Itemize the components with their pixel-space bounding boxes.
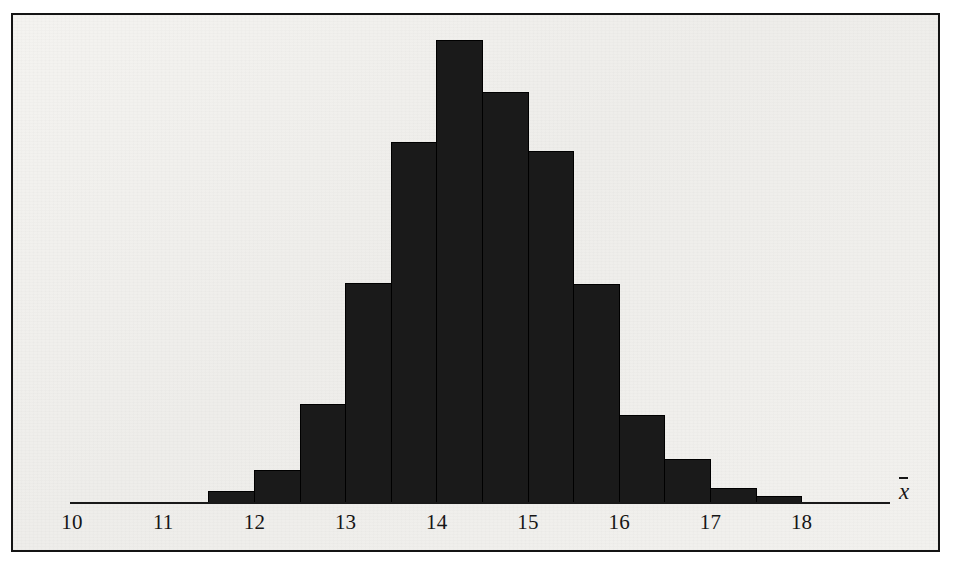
x-axis-tick-label: 13 — [335, 510, 356, 534]
x-axis-tick-labels: 101112131415161718 — [61, 510, 812, 534]
histogram-bar — [574, 285, 620, 503]
histogram-bar — [346, 283, 392, 503]
figure-root: 101112131415161718 x — [0, 0, 955, 567]
histogram-bar — [528, 151, 574, 503]
x-axis-tick-label: 10 — [61, 510, 82, 534]
histogram-bar — [710, 488, 756, 503]
histogram-bar — [482, 93, 528, 503]
x-axis-tick-label: 15 — [517, 510, 538, 534]
histogram-bar — [391, 143, 437, 503]
x-axis-tick-label: 14 — [426, 510, 448, 534]
histogram-bar — [437, 40, 483, 503]
x-axis-tick-label: 12 — [244, 510, 265, 534]
histogram-bar — [619, 416, 665, 503]
histogram-bar — [209, 492, 255, 503]
x-axis-tick-label: 11 — [153, 510, 174, 534]
x-bar-glyph: x — [899, 477, 909, 503]
histogram-chart: 101112131415161718 — [0, 0, 955, 567]
x-axis-tick-label: 17 — [700, 510, 721, 534]
histogram-bar — [300, 405, 346, 503]
histogram-bars — [209, 40, 802, 503]
histogram-bar — [254, 470, 300, 503]
x-axis-tick-label: 18 — [791, 510, 812, 534]
x-axis-tick-label: 16 — [608, 510, 629, 534]
histogram-bar — [665, 460, 711, 503]
x-axis-title: x — [899, 477, 909, 503]
